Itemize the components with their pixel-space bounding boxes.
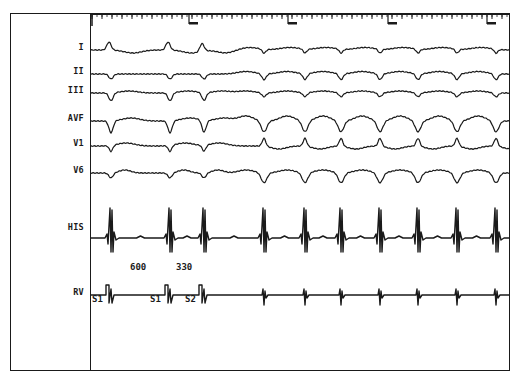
trace-v6: [91, 170, 509, 183]
trace-i: [91, 42, 509, 53]
trace-v1: [91, 138, 509, 152]
time-ruler: [91, 14, 509, 26]
waveforms: [91, 42, 509, 305]
trace-his: [91, 208, 509, 252]
trace-avf: [91, 116, 509, 134]
electrogram-traces: [0, 0, 522, 381]
trace-rv: [91, 285, 509, 305]
trace-ii: [91, 71, 509, 80]
trace-iii: [91, 91, 509, 101]
